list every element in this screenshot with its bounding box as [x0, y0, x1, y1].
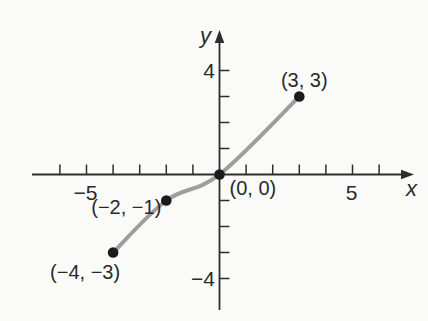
- point-label: (−4, −3): [50, 261, 120, 283]
- data-point: [214, 169, 225, 180]
- y-tick-label: −4: [191, 267, 215, 290]
- data-point: [294, 91, 305, 102]
- y-axis-arrowhead-icon: [215, 30, 225, 43]
- x-tick-label: 5: [346, 181, 358, 204]
- point-label: (−2, −1): [91, 196, 161, 218]
- data-point: [108, 247, 119, 258]
- data-point: [161, 195, 172, 206]
- y-axis-title: y: [198, 23, 213, 48]
- graph-canvas: −554−4xy(−4, −3)(−2, −1)(0, 0)(3, 3): [0, 0, 428, 321]
- figure: −554−4xy(−4, −3)(−2, −1)(0, 0)(3, 3): [0, 0, 428, 321]
- point-label: (3, 3): [281, 69, 328, 91]
- point-label: (0, 0): [230, 177, 277, 199]
- y-tick-label: 4: [203, 59, 215, 82]
- x-axis-title: x: [405, 176, 418, 201]
